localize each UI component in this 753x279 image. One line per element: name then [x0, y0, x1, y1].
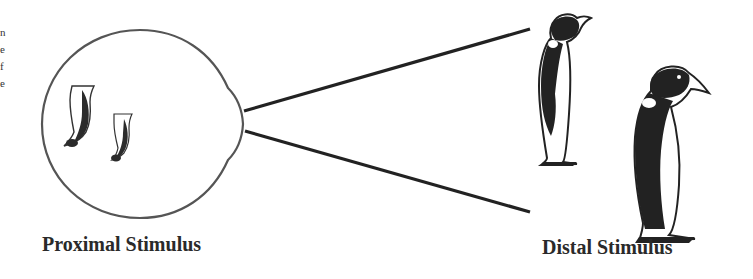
retinal-penguin-small-icon	[111, 114, 132, 162]
distal-penguin-small-icon	[539, 14, 591, 166]
edge-text-fragment: f	[0, 60, 4, 72]
edge-text-fragment: e	[0, 77, 5, 89]
edge-text-fragment: n	[0, 26, 6, 38]
retinal-penguin-large-icon	[64, 86, 94, 147]
distal-penguin-large-icon	[634, 66, 709, 243]
upper-projection-line	[244, 29, 530, 111]
lower-projection-line	[245, 131, 530, 212]
edge-text-fragment: e	[0, 43, 5, 55]
proximal-stimulus-label: Proximal Stimulus	[42, 233, 201, 256]
distal-stimulus-label: Distal Stimulus	[542, 236, 673, 259]
